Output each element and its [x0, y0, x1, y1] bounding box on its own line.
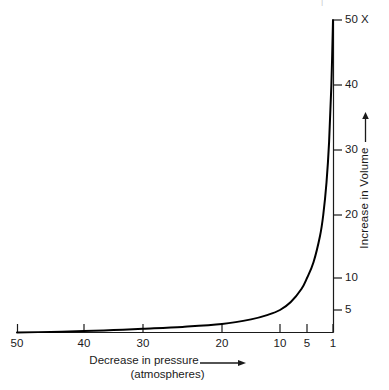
x-axis-title-text: Decrease in pressure: [89, 354, 198, 366]
x-tick-label-1: 1: [330, 338, 336, 350]
x-axis-title: Decrease in pressure (atmospheres): [0, 354, 335, 380]
x-tick-label-50: 50: [11, 338, 24, 350]
x-tick-label-30: 30: [137, 338, 150, 350]
x-tick-label-10: 10: [274, 338, 287, 350]
y-axis-ticks: [334, 20, 343, 310]
y-tick-label-40: 40: [345, 79, 358, 91]
chart-container: | 50 40 30 20 10 5: [0, 0, 389, 390]
x-tick-label-20: 20: [216, 338, 229, 350]
y-tick-label-5: 5: [345, 304, 351, 316]
x-axis-title-units: (atmospheres): [0, 368, 335, 380]
chart-plot-area: [0, 0, 389, 390]
y-axis-title-text: Increase in Volume: [358, 147, 370, 248]
x-tick-label-40: 40: [78, 338, 91, 350]
right-arrow-icon: [200, 357, 246, 365]
volume-pressure-curve: [17, 20, 333, 333]
x-tick-label-5: 5: [304, 338, 310, 350]
y-tick-label-50: 50 X: [345, 14, 369, 26]
y-axis-title: Increase in Volume: [356, 118, 372, 278]
